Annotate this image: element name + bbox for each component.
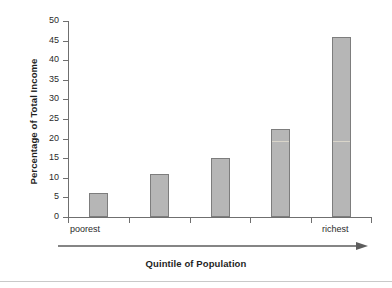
bar — [271, 129, 290, 217]
x-axis-tick — [311, 218, 312, 223]
y-axis-line — [68, 21, 69, 218]
bar — [89, 193, 108, 217]
y-axis-title: Percentage of Total Income — [28, 27, 39, 217]
y-axis-tick-label: 50 — [49, 15, 59, 25]
y-axis-tick-label: 15 — [49, 152, 59, 162]
x-axis-line — [68, 217, 372, 218]
y-axis-tick: 30 — [63, 99, 68, 100]
y-axis-tick: 20 — [63, 139, 68, 140]
y-axis-tick: 10 — [63, 178, 68, 179]
y-axis-tick-label: 5 — [54, 191, 59, 201]
y-axis-tick: 5 — [63, 197, 68, 198]
x-axis-tick — [68, 218, 69, 223]
y-axis-tick-label: 0 — [54, 211, 59, 221]
y-axis-tick: 45 — [63, 41, 68, 42]
bottom-divider — [0, 281, 392, 282]
y-axis-tick-label: 45 — [49, 35, 59, 45]
y-axis-tick-label: 10 — [49, 172, 59, 182]
y-axis-tick: 50 — [63, 21, 68, 22]
bar — [150, 174, 169, 217]
x-axis-title: Quintile of Population — [0, 258, 392, 269]
x-axis-tick — [371, 218, 372, 223]
y-axis-tick-label: 20 — [49, 133, 59, 143]
y-axis-tick: 25 — [63, 119, 68, 120]
x-axis-tick — [250, 218, 251, 223]
x-axis-label-richest: richest — [322, 224, 349, 234]
y-axis-tick: 40 — [63, 60, 68, 61]
y-axis-tick: 15 — [63, 158, 68, 159]
y-axis-tick: 35 — [63, 80, 68, 81]
y-axis-tick-label: 25 — [49, 113, 59, 123]
direction-arrow-icon — [58, 240, 368, 252]
y-axis-tick-label: 40 — [49, 54, 59, 64]
plot-area: 05101520253035404550 — [68, 22, 372, 218]
bar — [211, 158, 230, 217]
x-axis-label-poorest: poorest — [70, 224, 100, 234]
y-axis-tick-label: 30 — [49, 93, 59, 103]
income-distribution-bar-chart: Percentage of Total Income 0510152025303… — [0, 0, 392, 288]
bar — [332, 37, 351, 217]
bar-highlight-streak — [272, 141, 289, 142]
x-axis-tick — [190, 218, 191, 223]
y-axis-tick-label: 35 — [49, 74, 59, 84]
bar-highlight-streak — [333, 141, 350, 142]
x-axis-tick — [129, 218, 130, 223]
